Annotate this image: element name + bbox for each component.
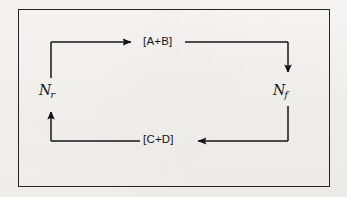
rate-subscript-reverse: r	[50, 89, 55, 100]
rate-constant-forward: Nf	[273, 81, 289, 97]
figure-canvas: [A+B] [C+D] Nr Nf	[0, 0, 347, 197]
rate-constant-reverse: Nr	[39, 81, 56, 97]
state-label-cd: [C+D]	[143, 134, 174, 146]
state-label-ab: [A+B]	[143, 36, 172, 48]
rate-subscript-forward: f	[284, 89, 288, 100]
